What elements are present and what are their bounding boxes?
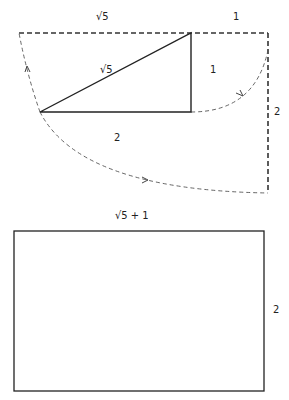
arc-leg-up bbox=[191, 50, 268, 112]
label-height: 2 bbox=[273, 303, 279, 316]
golden-rectangle-diagram: √5 1 √5 1 2 2 √5 + 1 2 bbox=[0, 0, 289, 400]
golden-rectangle bbox=[14, 231, 264, 391]
arc-base-down bbox=[40, 112, 268, 193]
arrow-right-icon bbox=[142, 177, 148, 183]
bottom-figure: √5 + 1 2 bbox=[14, 209, 279, 391]
label-hypotenuse: √5 bbox=[100, 63, 113, 76]
arrow-up-right-icon bbox=[236, 90, 243, 96]
arc-hypotenuse-up bbox=[19, 33, 40, 112]
label-right-side: 2 bbox=[274, 105, 280, 118]
label-top-one: 1 bbox=[233, 10, 239, 23]
label-width: √5 + 1 bbox=[115, 209, 148, 222]
right-triangle bbox=[40, 33, 191, 112]
label-vertical-leg: 1 bbox=[210, 63, 216, 76]
label-top-sqrt5: √5 bbox=[96, 10, 109, 23]
label-base: 2 bbox=[114, 131, 120, 144]
top-figure: √5 1 √5 1 2 2 bbox=[19, 10, 280, 193]
